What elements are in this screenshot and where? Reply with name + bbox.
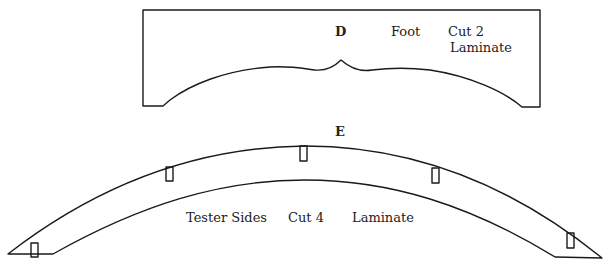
foot-piece-id: D bbox=[335, 24, 346, 39]
notch-3 bbox=[300, 146, 307, 161]
foot-piece-cut: Cut 2 bbox=[448, 24, 484, 39]
foot-piece-name: Foot bbox=[391, 24, 420, 39]
pattern-drawing bbox=[0, 0, 615, 268]
tester-side-name: Tester Sides bbox=[186, 210, 267, 225]
notch-1 bbox=[31, 243, 38, 257]
tester-side-cut: Cut 4 bbox=[288, 210, 324, 225]
notch-2 bbox=[166, 167, 173, 181]
foot-piece-material: Laminate bbox=[450, 40, 512, 55]
tester-side-material: Laminate bbox=[352, 210, 414, 225]
tester-side-outline bbox=[8, 146, 602, 258]
tester-side-id: E bbox=[335, 124, 345, 139]
notch-4 bbox=[432, 168, 439, 183]
pattern-diagram: D Foot Cut 2 Laminate E Tester Sides Cut… bbox=[0, 0, 615, 268]
